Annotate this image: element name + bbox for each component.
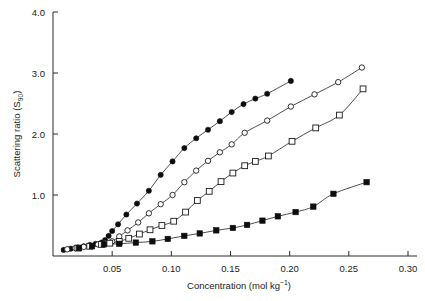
data-point: [158, 201, 163, 206]
data-point: [193, 168, 198, 173]
data-point: [265, 153, 271, 159]
data-point: [124, 212, 129, 217]
data-point: [229, 109, 234, 114]
data-point: [312, 92, 317, 97]
data-point: [218, 179, 224, 185]
y-tick-label-3.0: 3.0: [32, 68, 45, 79]
data-point: [106, 233, 111, 238]
data-point: [241, 102, 246, 107]
data-point: [158, 172, 163, 177]
data-point: [288, 104, 293, 109]
data-point: [242, 163, 248, 169]
data-point: [205, 158, 210, 163]
data-point: [230, 170, 236, 176]
data-point: [217, 150, 222, 155]
data-point: [313, 125, 319, 131]
data-point: [229, 142, 234, 147]
x-tick-label-0.10: 0.10: [162, 263, 181, 274]
data-point: [252, 159, 258, 165]
y-axis-title: Scattering ratio (S90): [11, 91, 24, 178]
data-point: [197, 231, 202, 236]
data-point: [107, 240, 113, 246]
data-point: [331, 191, 336, 196]
data-point: [230, 225, 235, 230]
data-point: [264, 118, 269, 123]
y-tick-label-1.0: 1.0: [32, 190, 45, 201]
data-point: [150, 239, 155, 244]
y-tick-label-4.0: 4.0: [32, 7, 45, 18]
data-point: [205, 127, 210, 132]
data-point: [110, 228, 115, 233]
data-point: [117, 241, 122, 246]
data-point: [134, 201, 139, 206]
data-point: [194, 198, 200, 204]
data-point: [183, 209, 189, 215]
data-point: [136, 220, 141, 225]
open-circle-series-curve: [67, 68, 362, 250]
y-tick-labels: 1.02.03.04.0: [32, 7, 45, 201]
x-axis-title: Concentration (mol kg−1): [187, 279, 291, 291]
x-tick-labels: 0.050.100.150.200.250.30: [103, 263, 417, 274]
fit-curves: [64, 68, 367, 250]
data-point: [182, 145, 187, 150]
data-point: [133, 240, 138, 245]
data-point: [242, 130, 247, 135]
data-point: [206, 188, 212, 194]
data-point: [165, 236, 170, 241]
x-tick-label-0.05: 0.05: [103, 263, 122, 274]
data-markers: [61, 65, 369, 253]
data-point: [136, 231, 142, 237]
data-point: [275, 214, 280, 219]
axes: [53, 12, 417, 256]
data-point: [182, 179, 187, 184]
data-point: [194, 136, 199, 141]
data-point: [159, 223, 165, 229]
data-point: [265, 91, 270, 96]
data-point: [360, 86, 366, 92]
filled-circle-series-curve: [64, 81, 291, 250]
data-point: [125, 228, 130, 233]
x-tick-label-0.30: 0.30: [399, 263, 418, 274]
data-point: [289, 138, 295, 144]
data-point: [126, 235, 132, 241]
data-point: [115, 222, 120, 227]
data-point: [260, 218, 265, 223]
data-point: [170, 159, 175, 164]
data-point: [293, 209, 298, 214]
data-point: [182, 233, 187, 238]
data-point: [171, 218, 177, 224]
data-point: [311, 204, 316, 209]
data-point: [76, 245, 81, 250]
data-point: [146, 188, 151, 193]
data-point: [147, 227, 153, 233]
open-circle-series: [65, 65, 365, 252]
data-point: [146, 211, 151, 216]
data-point: [65, 247, 70, 252]
data-point: [364, 179, 369, 184]
scattering-ratio-chart: 0.050.100.150.200.250.30 1.02.03.04.0 Co…: [0, 0, 425, 301]
filled-circle-series: [61, 78, 293, 252]
data-point: [253, 96, 258, 101]
data-point: [217, 119, 222, 124]
data-point: [170, 192, 175, 197]
data-point: [214, 228, 219, 233]
data-point: [244, 222, 249, 227]
x-tick-label-0.15: 0.15: [221, 263, 240, 274]
data-point: [101, 242, 106, 247]
data-point: [89, 244, 94, 249]
x-tick-label-0.25: 0.25: [340, 263, 359, 274]
x-tick-label-0.20: 0.20: [280, 263, 299, 274]
data-point: [335, 79, 340, 84]
data-point: [336, 112, 342, 118]
data-point: [288, 78, 293, 83]
y-tick-label-2.0: 2.0: [32, 129, 45, 140]
chart-canvas: 0.050.100.150.200.250.30 1.02.03.04.0 Co…: [0, 0, 425, 301]
data-point: [359, 65, 364, 70]
tick-marks: [53, 12, 408, 256]
